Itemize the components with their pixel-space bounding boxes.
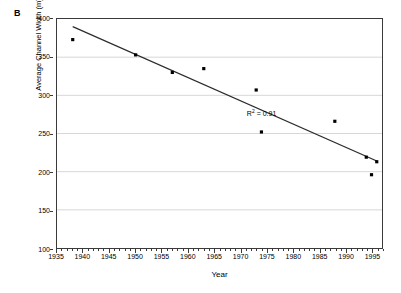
- figure-panel-b: B 100150200250300350400 Average Channel …: [0, 0, 401, 293]
- x-axis-minor-tick: [262, 249, 263, 251]
- y-axis-tick-mark: [50, 211, 53, 212]
- y-axis-tick-mark: [50, 134, 53, 135]
- x-axis-minor-tick: [103, 249, 104, 251]
- x-axis-minor-tick: [330, 249, 331, 251]
- data-point: [365, 156, 368, 159]
- x-axis-minor-tick: [93, 249, 94, 251]
- x-axis-minor-tick: [72, 249, 73, 251]
- x-axis-minor-tick: [325, 249, 326, 251]
- x-axis-minor-tick: [114, 249, 115, 251]
- x-axis-minor-tick: [362, 249, 363, 251]
- x-axis-minor-tick: [309, 249, 310, 251]
- x-axis-minor-tick: [146, 249, 147, 251]
- y-axis-tick-mark: [50, 18, 53, 19]
- x-axis-minor-tick: [177, 249, 178, 251]
- x-axis-title: Year: [56, 270, 383, 280]
- y-axis-tick-mark: [50, 172, 53, 173]
- x-axis-minor-tick: [357, 249, 358, 251]
- x-axis-minor-tick: [288, 249, 289, 251]
- x-axis-minor-tick: [230, 249, 231, 251]
- data-point: [202, 67, 205, 70]
- y-axis-tick-mark: [50, 57, 53, 58]
- y-axis-title: Average Channel Width (m): [34, 0, 43, 135]
- x-axis-minor-tick: [220, 249, 221, 251]
- x-axis-minor-tick: [125, 249, 126, 251]
- x-axis-minor-tick: [314, 249, 315, 251]
- y-axis-tick-mark: [50, 95, 53, 96]
- x-axis-minor-tick: [225, 249, 226, 251]
- x-axis-minor-tick: [98, 249, 99, 251]
- x-axis-minor-tick: [77, 249, 78, 251]
- panel-label: B: [14, 8, 21, 19]
- x-axis-minor-tick: [246, 249, 247, 251]
- x-axis-minor-tick: [367, 249, 368, 251]
- x-axis-minor-tick: [383, 249, 384, 251]
- x-axis-minor-tick: [251, 249, 252, 251]
- x-axis-minor-tick: [336, 249, 337, 251]
- data-point: [134, 53, 137, 56]
- y-axis-tick-label: 200: [24, 169, 50, 176]
- x-axis-minor-tick: [209, 249, 210, 251]
- r-squared-annotation: R2 = 0.91: [247, 107, 276, 118]
- x-axis-tick-labels: 1935194019451950195519601965197019751980…: [56, 253, 383, 267]
- r-squared-value: = 0.91: [255, 110, 277, 117]
- data-point: [255, 88, 258, 91]
- x-axis-minor-tick: [272, 249, 273, 251]
- x-axis-minor-tick: [67, 249, 68, 251]
- trendline: [73, 27, 377, 161]
- data-point: [333, 120, 336, 123]
- y-axis-tick-label: 150: [24, 207, 50, 214]
- y-axis-tick-label: 100: [24, 246, 50, 253]
- x-axis-minor-tick: [283, 249, 284, 251]
- x-axis-minor-tick: [156, 249, 157, 251]
- data-point: [171, 71, 174, 74]
- data-point: [375, 160, 378, 163]
- x-axis-minor-tick: [304, 249, 305, 251]
- x-axis-minor-tick: [193, 249, 194, 251]
- data-layer: [57, 19, 382, 248]
- x-axis-tick-label: 1995: [352, 253, 392, 261]
- x-axis-minor-tick: [119, 249, 120, 251]
- x-axis-minor-tick: [351, 249, 352, 251]
- data-point: [71, 38, 74, 41]
- x-axis-minor-tick: [151, 249, 152, 251]
- data-point: [370, 173, 373, 176]
- x-axis-minor-tick: [183, 249, 184, 251]
- x-axis-minor-tick: [235, 249, 236, 251]
- x-axis-minor-tick: [172, 249, 173, 251]
- y-axis-tick-mark: [50, 249, 53, 250]
- x-axis-minor-tick: [378, 249, 379, 251]
- x-axis-minor-tick: [130, 249, 131, 251]
- x-axis-minor-tick: [198, 249, 199, 251]
- x-axis-minor-tick: [299, 249, 300, 251]
- plot-area: R2 = 0.91: [56, 18, 383, 249]
- x-axis-minor-tick: [256, 249, 257, 251]
- x-axis-minor-tick: [140, 249, 141, 251]
- x-axis-minor-tick: [167, 249, 168, 251]
- data-point: [260, 130, 263, 133]
- x-axis-minor-tick: [204, 249, 205, 251]
- x-axis-minor-tick: [88, 249, 89, 251]
- x-axis-minor-tick: [61, 249, 62, 251]
- x-axis-minor-tick: [278, 249, 279, 251]
- x-axis-minor-tick: [341, 249, 342, 251]
